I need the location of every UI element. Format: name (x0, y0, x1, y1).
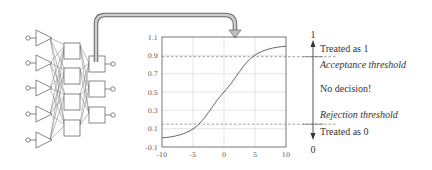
hidden-layer-1 (64, 43, 80, 136)
no-decision-label: No decision! (320, 83, 371, 94)
scale-top-label: 1 (311, 29, 316, 40)
arrow-up-icon (311, 40, 316, 47)
treated-as-1-label: Treated as 1 (320, 43, 369, 54)
scale-bottom-label: 0 (311, 144, 316, 155)
svg-text:-10: -10 (157, 151, 167, 159)
svg-text:10: 10 (282, 151, 290, 159)
svg-text:0: 0 (222, 151, 226, 159)
diagram-canvas: 1.1 0.9 0.7 0.5 0.3 0.1 -0.1 -10 -5 0 5 … (0, 0, 432, 170)
hidden-layer-2 (89, 56, 105, 123)
neural-network (26, 30, 115, 148)
svg-text:0.7: 0.7 (148, 70, 158, 78)
output-layer (105, 62, 115, 117)
svg-text:0.5: 0.5 (148, 89, 158, 97)
x-axis-ticks: -10 -5 0 5 10 (157, 151, 290, 159)
connections-input-hidden1 (50, 38, 65, 140)
svg-text:0.3: 0.3 (148, 107, 158, 115)
input-layer (26, 30, 52, 148)
svg-text:-5: -5 (190, 151, 196, 159)
rejection-threshold-label: Rejection threshold (319, 109, 399, 120)
arrow-down-icon (311, 133, 316, 140)
pipe-arrow-icon (96, 15, 241, 62)
sigmoid-chart: 1.1 0.9 0.7 0.5 0.3 0.1 -0.1 -10 -5 0 5 … (145, 34, 337, 160)
svg-text:1.1: 1.1 (148, 34, 158, 42)
svg-text:5: 5 (253, 151, 257, 159)
y-axis-ticks: 1.1 0.9 0.7 0.5 0.3 0.1 -0.1 (145, 34, 158, 152)
acceptance-threshold-label: Acceptance threshold (319, 59, 407, 70)
svg-text:0.9: 0.9 (148, 52, 158, 60)
connections-hidden1-hidden2 (80, 45, 89, 125)
treated-as-0-label: Treated as 0 (320, 126, 369, 137)
decision-scale: 1 0 Treated as 1 Acceptance threshold No… (303, 29, 407, 155)
svg-text:0.1: 0.1 (148, 125, 158, 133)
